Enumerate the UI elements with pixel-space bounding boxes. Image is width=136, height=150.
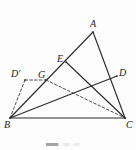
vertex-dots-group xyxy=(9,31,126,119)
solid-lines-group xyxy=(10,32,125,118)
vertex-label-a: A xyxy=(90,19,96,29)
vertex-label-c: C xyxy=(126,120,133,130)
vertex-point-d xyxy=(116,75,118,77)
dashed-lines-group xyxy=(10,80,125,118)
segment-EC xyxy=(66,62,125,118)
caption-artifact xyxy=(46,143,90,146)
segment-Dprime-B xyxy=(10,80,25,118)
vertex-point-e xyxy=(65,61,67,63)
geometry-figure: ABCEDGD′ xyxy=(0,0,136,150)
segment-AB xyxy=(10,32,93,118)
vertex-label-dp: D′ xyxy=(11,69,20,79)
segment-BD xyxy=(10,76,117,118)
vertex-point-dp xyxy=(24,79,26,81)
vertex-point-a xyxy=(92,31,94,33)
vertex-label-d: D xyxy=(119,68,126,78)
vertex-label-e: E xyxy=(57,54,63,64)
vertex-label-b: B xyxy=(4,120,10,130)
vertex-point-g xyxy=(45,79,47,81)
vertex-label-g: G xyxy=(38,70,45,80)
